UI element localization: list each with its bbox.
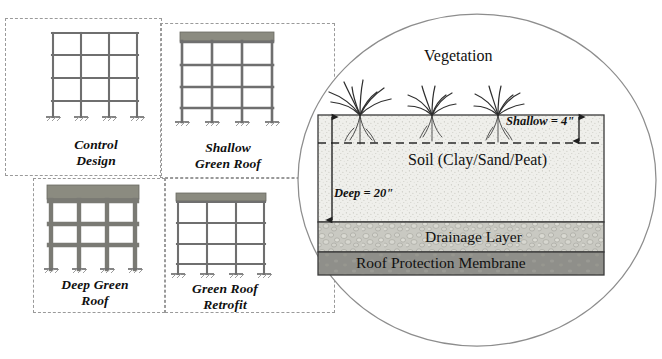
caption-line-1: Green Roof <box>167 281 283 297</box>
label-deep-depth: Deep = 20" <box>334 186 393 201</box>
label-drainage-layer: Drainage Layer <box>425 228 522 246</box>
caption-green-roof-retrofit: Green Roof Retrofit <box>167 281 283 312</box>
label-soil: Soil (Clay/Sand/Peat) <box>408 151 547 169</box>
caption-line-2: Green Roof <box>172 156 284 172</box>
frame-base-hatching-shallow <box>176 122 280 126</box>
green-roof-slab-deep <box>47 185 139 199</box>
label-roof-protection-membrane: Roof Protection Membrane <box>356 254 526 272</box>
green-roof-slab-retrofit <box>176 193 266 201</box>
frame-green-roof-retrofit <box>172 192 272 284</box>
frame-control-design <box>47 28 143 128</box>
caption-line-2: Design <box>40 153 152 169</box>
frame-members-retrofit <box>177 202 265 274</box>
caption-line-2: Roof <box>35 293 155 309</box>
caption-line-1: Shallow <box>172 140 284 156</box>
label-shallow-depth: Shallow = 4" <box>506 114 574 129</box>
label-vegetation: Vegetation <box>424 47 492 65</box>
frame-members-control <box>52 33 138 117</box>
caption-line-1: Control <box>40 137 152 153</box>
caption-line-1: Deep Green <box>35 277 155 293</box>
caption-shallow-green-roof: Shallow Green Roof <box>172 140 284 171</box>
caption-control-design: Control Design <box>40 137 152 168</box>
caption-line-2: Retrofit <box>167 297 283 313</box>
frame-members-shallow <box>181 41 273 122</box>
frame-deep-green-roof <box>44 184 144 282</box>
green-roof-slab-shallow <box>180 32 274 41</box>
figure-canvas: Control Design <box>0 0 662 359</box>
caption-deep-green-roof: Deep Green Roof <box>35 277 155 308</box>
frame-members-deep <box>49 200 137 269</box>
frame-shallow-green-roof <box>176 30 280 130</box>
